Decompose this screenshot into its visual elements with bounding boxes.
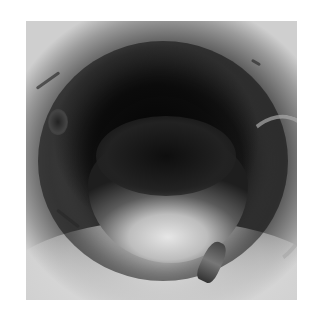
animal-back-fur — [96, 116, 236, 196]
tube-mark — [36, 71, 61, 90]
animal-ear — [48, 109, 68, 135]
photo — [26, 21, 297, 300]
tube-mark — [251, 59, 261, 67]
